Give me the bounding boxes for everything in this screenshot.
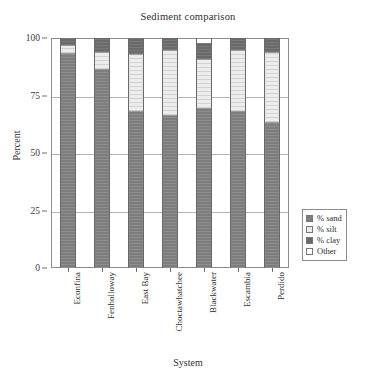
legend-item-silt[interactable]: % silt (306, 224, 342, 235)
bar-perdido[interactable] (264, 38, 280, 268)
y-axis-tick-label: 0 (35, 263, 40, 273)
y-axis-tick-labels: 0255075100 (0, 38, 47, 268)
bar-fenholloway[interactable] (94, 38, 110, 268)
y-axis-tick-label: 100 (26, 33, 40, 43)
bar-segment-silt (265, 52, 279, 123)
bar-segment-clay (61, 38, 75, 45)
legend-item-clay[interactable]: % clay (306, 235, 342, 246)
y-axis-tick-mark (42, 95, 47, 96)
bar-segment-sand (197, 109, 211, 268)
bar-segment-sand (61, 54, 75, 268)
bar-segment-silt (61, 45, 75, 54)
x-axis-tick-label: Econfina (72, 272, 82, 304)
chart-title: Sediment comparison (0, 11, 376, 22)
bar-east-bay[interactable] (128, 38, 144, 268)
bar-choctawhatchee[interactable] (162, 38, 178, 268)
bar-segment-silt (231, 50, 245, 112)
y-axis-tick-mark (42, 153, 47, 154)
bar-segment-clay (163, 38, 177, 50)
bar-segment-silt (197, 59, 211, 110)
y-axis-tick-mark (42, 38, 47, 39)
bar-escambia[interactable] (230, 38, 246, 268)
legend-swatch-clay-icon (306, 237, 313, 244)
legend-swatch-sand-icon (306, 215, 313, 222)
bar-segment-silt (95, 52, 109, 70)
bar-segment-clay (95, 38, 109, 52)
x-axis-title: System (0, 357, 376, 368)
bar-segment-clay (231, 38, 245, 50)
legend-label: Other (317, 247, 336, 256)
chart-legend: % sand% silt% clayOther (302, 209, 347, 261)
bar-blackwater[interactable] (196, 38, 212, 268)
bar-econfina[interactable] (60, 38, 76, 268)
legend-swatch-other-icon (306, 248, 313, 255)
x-axis-tick-label: East Bay (140, 272, 150, 304)
bar-segment-sand (163, 116, 177, 268)
bar-segment-silt (129, 54, 143, 112)
bar-segment-clay (129, 38, 143, 54)
x-axis-tick-label: Choctawhatchee (174, 272, 184, 331)
x-axis-tick-label: Escambia (242, 272, 252, 307)
y-axis-tick-label: 75 (31, 91, 41, 101)
legend-label: % silt (317, 225, 337, 234)
y-axis-tick-label: 25 (31, 206, 41, 216)
x-axis-tick-labels: EconfinaFenhollowayEast BayChoctawhatche… (51, 272, 289, 352)
x-axis-tick-label: Fenholloway (106, 272, 116, 319)
bar-segment-clay (197, 43, 211, 59)
legend-label: % clay (317, 236, 340, 245)
bar-segment-sand (231, 112, 245, 268)
legend-swatch-silt-icon (306, 226, 313, 233)
y-axis-tick-mark (42, 268, 47, 269)
legend-label: % sand (317, 214, 342, 223)
bar-segment-sand (265, 123, 279, 268)
bar-segment-sand (95, 70, 109, 268)
bar-segment-silt (163, 50, 177, 117)
legend-item-sand[interactable]: % sand (306, 213, 342, 224)
chart-root: Sediment comparison Percent 0255075100 E… (0, 0, 376, 380)
x-axis-tick-label: Perdido (276, 272, 286, 300)
x-axis-tick-label: Blackwater (208, 272, 218, 313)
bar-segment-sand (129, 112, 143, 268)
bars-layer (51, 38, 289, 268)
bar-segment-clay (265, 38, 279, 52)
legend-item-other[interactable]: Other (306, 246, 342, 257)
y-axis-tick-label: 50 (31, 148, 41, 158)
y-axis-tick-mark (42, 210, 47, 211)
